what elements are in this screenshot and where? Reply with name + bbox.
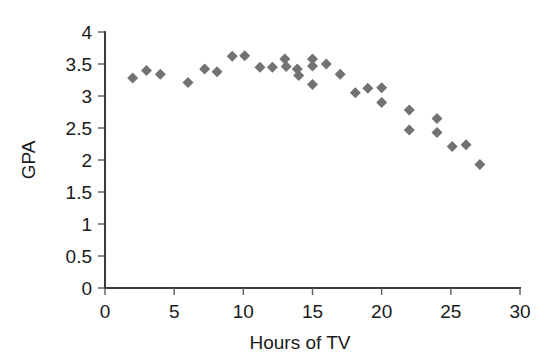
data-point (447, 141, 458, 152)
x-axis-tick-label: 15 (302, 301, 323, 322)
chart-canvas: 00.511.522.533.54 051015202530 Hours of … (0, 0, 556, 359)
y-axis-tick-label: 1.5 (66, 182, 92, 203)
y-axis-tick-label: 2.5 (66, 118, 92, 139)
y-axis-tick-label: 3.5 (66, 54, 92, 75)
data-point (212, 66, 223, 77)
scatter-chart-figure: 00.511.522.533.54 051015202530 Hours of … (0, 0, 556, 359)
data-point (404, 105, 415, 116)
data-point (321, 59, 332, 70)
data-point (307, 60, 318, 71)
y-axis: 00.511.522.533.54 (66, 22, 105, 299)
x-axis-title: Hours of TV (249, 332, 350, 353)
y-axis-tick-label: 0 (81, 278, 92, 299)
x-axis-tick-label: 0 (100, 301, 111, 322)
y-axis-title: GPA (18, 140, 39, 179)
data-point (127, 73, 138, 84)
data-point (404, 124, 415, 135)
data-point (350, 87, 361, 98)
data-point (335, 69, 346, 80)
data-point (155, 69, 166, 80)
data-point (199, 64, 210, 75)
data-point (376, 97, 387, 108)
x-axis-tick-label: 30 (509, 301, 530, 322)
data-point (307, 79, 318, 90)
data-point (474, 159, 485, 170)
x-axis-tick-label: 25 (440, 301, 461, 322)
data-point (141, 65, 152, 76)
data-point (183, 77, 194, 88)
y-axis-tick-label: 2 (81, 150, 92, 171)
x-axis-tick-label: 10 (233, 301, 254, 322)
data-point (376, 82, 387, 93)
x-axis-tick-label: 5 (169, 301, 180, 322)
data-point (362, 83, 373, 94)
y-axis-tick-label: 0.5 (66, 246, 92, 267)
y-axis-tick-label: 4 (81, 22, 92, 43)
data-point (461, 139, 472, 150)
data-point-layer (127, 50, 485, 170)
data-point (432, 113, 443, 124)
data-point (267, 62, 278, 73)
data-point (281, 61, 292, 72)
y-axis-tick-label: 1 (81, 214, 92, 235)
x-axis: 051015202530 (100, 288, 531, 322)
data-point (227, 51, 238, 62)
data-point (239, 50, 250, 61)
x-axis-tick-label: 20 (371, 301, 392, 322)
y-axis-tick-label: 3 (81, 86, 92, 107)
data-point (432, 127, 443, 138)
data-point (254, 62, 265, 73)
